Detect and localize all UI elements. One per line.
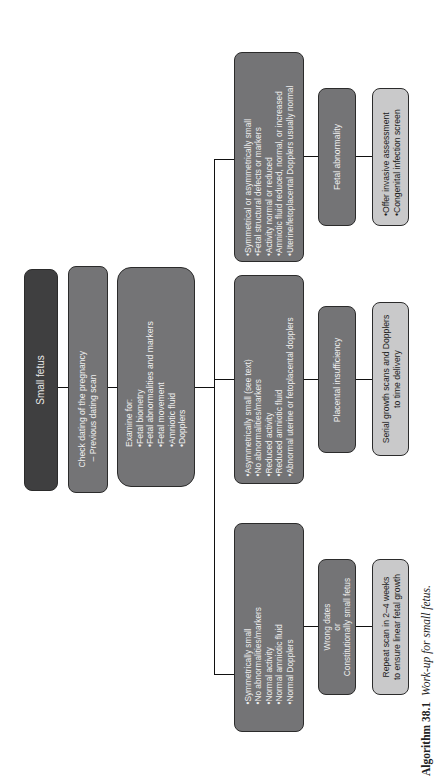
diagnosis-line: Constitutionally small fetus bbox=[342, 578, 352, 676]
finding-item: Abnormal uterine or fetoplacental dopple… bbox=[285, 317, 295, 476]
connector-trunk-branch-3 bbox=[214, 674, 234, 675]
finding-item: Amniotic fluid reduced, normal, or incre… bbox=[274, 86, 284, 256]
examine-item: Fetal biometry bbox=[135, 321, 146, 447]
branch-1-diagnosis: Fetal abnormality bbox=[318, 88, 356, 226]
connector-root-check bbox=[58, 387, 68, 388]
branch-3-findings-list: Symmetrically small No abnormalities/mar… bbox=[243, 607, 295, 704]
finding-item: Symmetrically small bbox=[243, 607, 253, 704]
finding-item: No abnormalities/markers bbox=[253, 317, 263, 476]
diagnosis-label: Fetal abnormality bbox=[332, 124, 343, 190]
connector-findings-diagnosis-2 bbox=[304, 379, 318, 380]
branch-3-diagnosis: Wrong dates or Constitutionally small fe… bbox=[318, 559, 356, 695]
action-line: to ensure linear fetal growth bbox=[391, 574, 402, 680]
finding-item: Normal Dopplers bbox=[285, 607, 295, 704]
connector-findings-diagnosis-3 bbox=[304, 626, 318, 627]
examine-node: Examine for: Fetal biometry Fetal abnorm… bbox=[117, 267, 195, 487]
connector-diagnosis-action-1 bbox=[356, 156, 372, 157]
examine-item: Fetal abnormalities and markers bbox=[145, 321, 156, 447]
diagnosis-line: or bbox=[332, 623, 342, 630]
connector-examine-trunk bbox=[195, 387, 215, 388]
diagnosis-line: Wrong dates bbox=[322, 604, 332, 651]
diagnosis-label: Placental insufficiency bbox=[332, 337, 343, 421]
check-dating-title: Check dating of the pregnancy bbox=[77, 350, 88, 467]
connector-trunk-vertical bbox=[214, 159, 215, 675]
finding-item: Uterine/fetoplacental Dopplers usually n… bbox=[285, 86, 295, 256]
flowchart-canvas: Small fetus Check dating of the pregnanc… bbox=[0, 0, 447, 778]
connector-trunk-branch-1 bbox=[214, 159, 234, 160]
branch-1-findings: Symmetrical or asymmetrically small Feta… bbox=[234, 52, 304, 262]
connector-findings-diagnosis-1 bbox=[304, 156, 318, 157]
action-item: Congenital infection screen bbox=[391, 109, 402, 216]
examine-item: Amniotic fluid bbox=[167, 321, 178, 447]
branch-1-action-list: Offer invasive assessment Congenital inf… bbox=[380, 109, 401, 216]
branch-2-diagnosis: Placental insufficiency bbox=[318, 306, 356, 453]
action-line: Repeat scan in 2–4 weeks bbox=[380, 577, 391, 678]
finding-item: Symmetrical or asymmetrically small bbox=[243, 86, 253, 256]
finding-item: Fetal structural defects or markers bbox=[253, 86, 263, 256]
figure-caption: Algorithm 38.1Work-up for small fetus. bbox=[420, 560, 436, 776]
root-node-small-fetus: Small fetus bbox=[24, 269, 58, 491]
connector-diagnosis-action-2 bbox=[356, 379, 372, 380]
finding-item: Reduced activity bbox=[264, 317, 274, 476]
examine-list: Fetal biometry Fetal abnormalities and m… bbox=[135, 321, 188, 447]
finding-item: No abnormalities/markers bbox=[253, 607, 263, 704]
finding-item: Activity normal or reduced bbox=[264, 86, 274, 256]
branch-2-findings: Asymmetrically small (see text) No abnor… bbox=[234, 275, 304, 484]
connector-check-examine bbox=[108, 387, 117, 388]
examine-title: Examine for: bbox=[124, 399, 135, 447]
branch-3-findings: Symmetrically small No abnormalities/mar… bbox=[234, 523, 304, 732]
check-dating-node: Check dating of the pregnancy – Previous… bbox=[68, 266, 108, 493]
check-dating-detail: – Previous dating scan bbox=[88, 374, 99, 467]
branch-2-findings-list: Asymmetrically small (see text) No abnor… bbox=[243, 317, 295, 476]
branch-1-findings-list: Symmetrical or asymmetrically small Feta… bbox=[243, 86, 295, 256]
action-line: Serial growth scans and Dopplers bbox=[380, 315, 391, 444]
branch-2-action: Serial growth scans and Dopplers to time… bbox=[372, 302, 409, 456]
caption-label: Algorithm 38.1 bbox=[420, 702, 432, 776]
connector-diagnosis-action-3 bbox=[356, 626, 372, 627]
examine-item: Fetal movement bbox=[156, 321, 167, 447]
finding-item: Asymmetrically small (see text) bbox=[243, 317, 253, 476]
connector-trunk-branch-2 bbox=[214, 379, 234, 380]
action-line: to time delivery bbox=[391, 350, 402, 408]
finding-item: Normal amniotic fluid bbox=[274, 607, 284, 704]
branch-1-action: Offer invasive assessment Congenital inf… bbox=[372, 88, 409, 226]
action-item: Offer invasive assessment bbox=[380, 109, 391, 216]
branch-3-action: Repeat scan in 2–4 weeks to ensure linea… bbox=[372, 559, 409, 695]
caption-text: Work-up for small fetus. bbox=[420, 585, 432, 696]
finding-item: Reduced amniotic fluid bbox=[274, 317, 284, 476]
root-node-label: Small fetus bbox=[36, 355, 47, 404]
examine-item: Dopplers bbox=[177, 321, 188, 447]
finding-item: Normal activity bbox=[264, 607, 274, 704]
